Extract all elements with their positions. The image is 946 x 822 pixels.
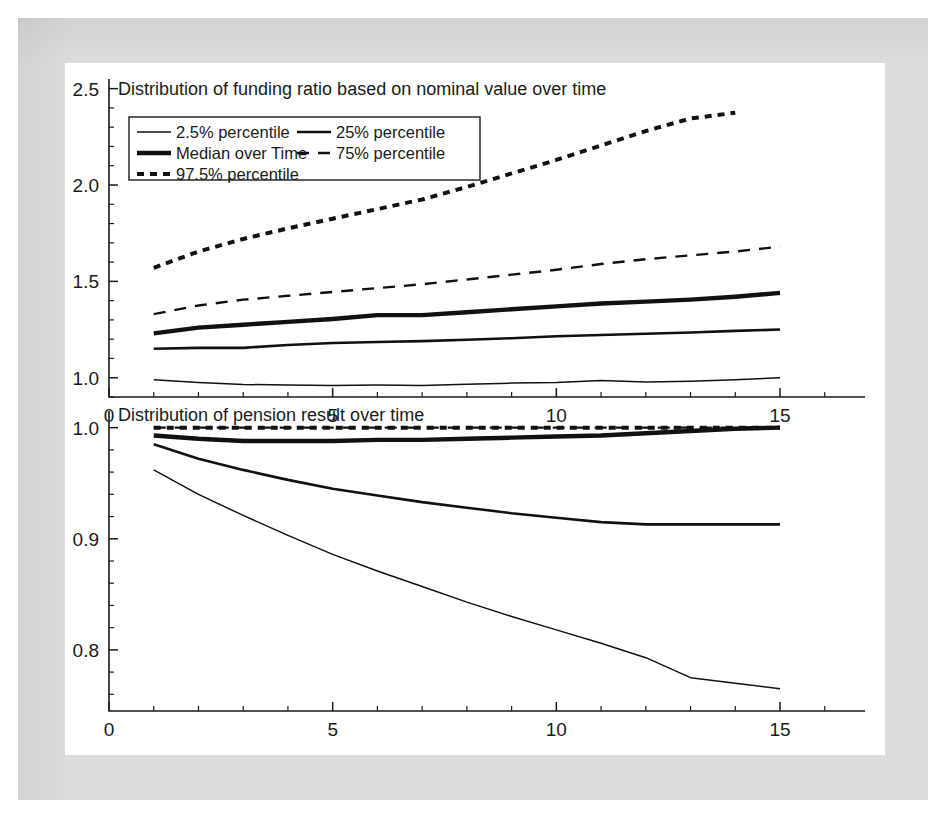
- x-tick-label: 15: [769, 719, 790, 740]
- series-2-5-percentile: [154, 470, 780, 689]
- series-2-5-percentile: [154, 378, 780, 386]
- white-figure-canvas: 1.01.52.02.5051015 Distribution of fundi…: [65, 63, 885, 755]
- chart-figure: 1.01.52.02.5051015 Distribution of fundi…: [65, 63, 885, 755]
- legend-label-2.5-percentile: 2.5% percentile: [176, 123, 290, 141]
- x-tick-label: 0: [104, 719, 115, 740]
- x-tick-label: 10: [546, 405, 567, 426]
- y-tick-label: 2.5: [73, 79, 99, 100]
- x-tick-label: 10: [546, 719, 567, 740]
- x-tick-label: 5: [327, 719, 338, 740]
- y-tick-label: 0.8: [73, 640, 99, 661]
- series-25-percentile: [154, 444, 780, 524]
- bottom-panel-series-lines: [154, 428, 780, 689]
- legend-label-75-percentile: 75% percentile: [336, 144, 445, 162]
- top-panel-title: Distribution of funding ratio based on n…: [118, 79, 606, 99]
- y-tick-label: 0.9: [73, 529, 99, 550]
- x-tick-label: 15: [769, 405, 790, 426]
- bottom-panel-tick-labels: 0.80.91.0051015: [73, 418, 791, 740]
- chart-legend: 2.5% percentile 25% percentile Median ov…: [129, 117, 480, 183]
- figure-page-root: 1.01.52.02.5051015 Distribution of fundi…: [0, 0, 946, 822]
- legend-label-97.5-percentile: 97.5% percentile: [176, 165, 299, 183]
- y-tick-label: 2.0: [73, 175, 99, 196]
- bottom-panel-axes: [109, 411, 865, 711]
- y-tick-label: 1.0: [73, 418, 99, 439]
- y-tick-label: 1.0: [73, 368, 99, 389]
- legend-label-25-percentile: 25% percentile: [336, 123, 445, 141]
- legend-label-median: Median over Time: [176, 144, 307, 162]
- series-25-percentile: [154, 330, 780, 349]
- bottom-panel: 0.80.91.0051015 Distribution of pension …: [73, 405, 865, 740]
- series-75-percentile: [154, 247, 780, 314]
- y-tick-label: 1.5: [73, 271, 99, 292]
- bottom-panel-title: Distribution of pension result over time: [118, 405, 424, 425]
